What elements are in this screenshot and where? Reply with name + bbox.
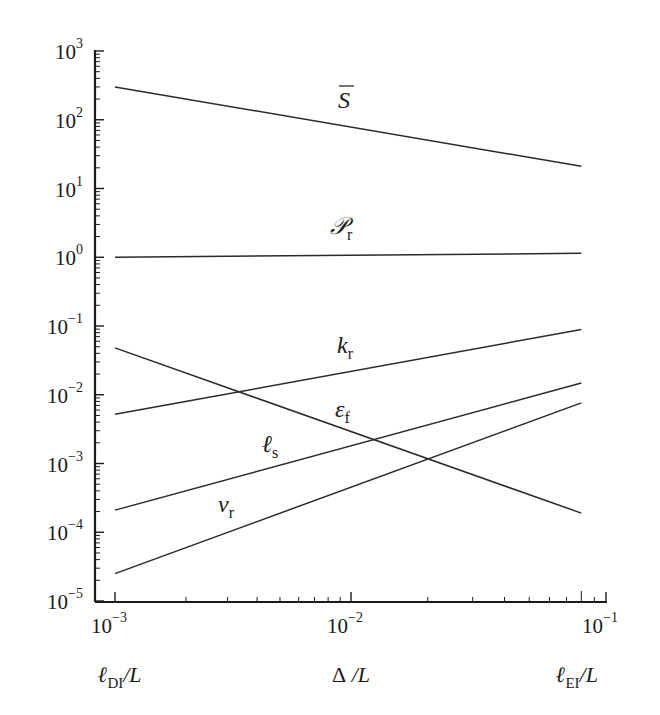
series-label-f: εf [335,396,350,426]
axis-ticks [95,51,606,602]
series-lines [115,87,581,574]
y-tick-label: 10−3 [47,449,83,477]
x-tick-label: 10−3 [91,610,127,638]
chart: 10310210110010−110−210−310−410−510−310−2… [0,0,660,715]
y-tick-label: 10−5 [47,586,83,614]
y-tick-label: 10−1 [47,311,83,339]
series-label-kr: kr [337,332,354,362]
y-tick-label: 103 [55,36,83,64]
x-tick-label: 10−2 [327,610,363,638]
series-labels: S𝒫rkrεfℓsνr [218,86,354,521]
y-tick-label: 10−4 [47,517,83,545]
y-tick-label: 101 [55,174,83,202]
x-tick-label: 10−1 [582,610,618,638]
x-annotation-delta: Δ /L [332,662,370,687]
series-label-vr: νr [218,491,235,521]
axes [95,50,607,602]
x-annotation-ei: ℓEI/L [556,662,598,691]
y-tick-label: 100 [55,242,83,270]
series-line-pr [115,253,581,257]
tick-labels: 10310210110010−110−210−310−410−510−310−2… [47,36,618,638]
series-label-s: ℓs [262,431,278,461]
series-label-s: S [338,87,350,113]
x-annotation-di: ℓDI/L [98,662,142,691]
y-tick-label: 10−2 [47,380,83,408]
y-tick-label: 102 [55,105,83,133]
x-axis-annotations: ℓDI/LΔ /LℓEI/L [98,662,598,691]
series-label-pr: 𝒫r [330,213,354,243]
